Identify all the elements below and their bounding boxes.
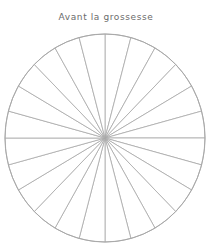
segment-wheel — [0, 0, 218, 252]
